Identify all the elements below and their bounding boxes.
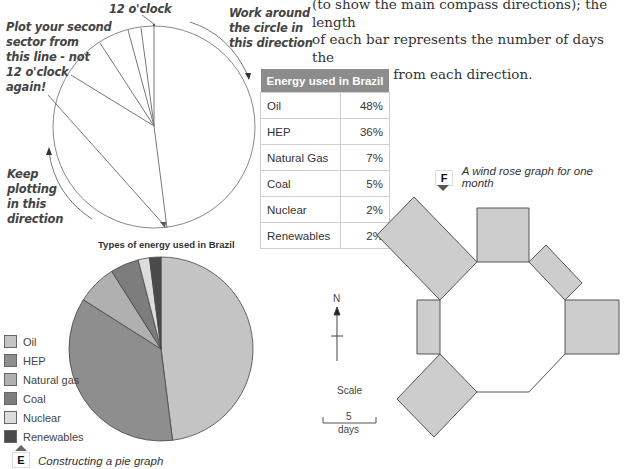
pie-legend: Oil HEP Natural gas Coal Nuclear Renewab… [4, 332, 84, 446]
legend-label: HEP [23, 355, 46, 367]
energy-source: HEP [261, 119, 341, 145]
figure-f-caption: F A wind rose graph for one month [432, 164, 626, 190]
swatch-icon [4, 392, 17, 405]
label-line: this line - not [6, 50, 112, 65]
label-line: Keep [7, 167, 63, 182]
label-line: the circle in [229, 21, 313, 36]
label-line: plotting [7, 182, 63, 197]
wind-bar-w [417, 300, 440, 354]
swatch-icon [4, 411, 17, 424]
label-second-sector: Plot your second sector from this line -… [6, 20, 112, 95]
figure-caption: A wind rose graph for one month [462, 165, 626, 189]
legend-label: Renewables [23, 431, 84, 443]
swatch-icon [4, 373, 17, 386]
wind-bar-sw [397, 354, 477, 437]
figure-caption: Constructing a pie graph [38, 455, 163, 467]
legend-item-oil: Oil [4, 332, 84, 351]
legend-label: Coal [23, 393, 46, 405]
legend-item-coal: Coal [4, 389, 84, 408]
wind-bar-ne [529, 245, 582, 300]
label-12-oclock: 12 o'clock [109, 2, 172, 17]
table-row: Natural Gas7% [261, 145, 390, 171]
energy-source: Oil [261, 93, 341, 119]
label-line: sector from [6, 35, 112, 50]
label-line: this direction [229, 36, 313, 51]
table-row: Oil48% [261, 93, 390, 119]
legend-label: Oil [23, 336, 36, 348]
legend-item-renewables: Renewables [4, 427, 84, 446]
label-line: direction [7, 212, 63, 227]
label-work-around: Work around the circle in this direction [229, 6, 313, 51]
figure-badge-f: F [435, 170, 453, 186]
figure-e-caption: E Constructing a pie graph [4, 447, 163, 467]
energy-source: Natural Gas [261, 145, 341, 171]
label-line: 12 o'clock [6, 65, 112, 80]
pie-slice-oil [161, 257, 253, 440]
scale-value: 5 [346, 411, 352, 422]
wind-bar-e [565, 300, 619, 354]
north-label: N [333, 293, 340, 304]
wind-bar-nw [377, 197, 477, 300]
legend-item-hep: HEP [4, 351, 84, 370]
legend-item-natural-gas: Natural gas [4, 370, 84, 389]
legend-label: Nuclear [23, 412, 61, 424]
label-line: Plot your second [6, 20, 112, 35]
intro-line: (to show the main compass directions); t… [312, 0, 626, 31]
label-keep-plotting: Keep plotting in this direction [7, 167, 63, 227]
table-row: HEP36% [261, 119, 390, 145]
pie-chart-title: Types of energy used in Brazil [98, 239, 235, 250]
label-line: again! [6, 80, 112, 95]
energy-table-header: Energy used in Brazil [261, 69, 390, 93]
north-arrow-icon [331, 307, 343, 361]
legend-item-nuclear: Nuclear [4, 408, 84, 427]
swatch-icon [4, 430, 17, 443]
intro-line: of each bar represents the number of day… [312, 31, 626, 66]
figure-badge-e: E [12, 452, 30, 468]
energy-percent: 7% [340, 145, 389, 171]
label-line: Work around [229, 6, 313, 21]
wind-bar-n [477, 208, 529, 262]
energy-percent: 36% [340, 119, 389, 145]
legend-label: Natural gas [23, 374, 79, 386]
swatch-icon [4, 335, 17, 348]
scale-label: Scale [337, 385, 362, 396]
scale-unit: days [338, 424, 359, 435]
energy-pie-chart [60, 250, 260, 450]
swatch-icon [4, 354, 17, 367]
label-line: in this [7, 197, 63, 212]
energy-percent: 48% [340, 93, 389, 119]
triangle-up-icon [15, 445, 27, 451]
